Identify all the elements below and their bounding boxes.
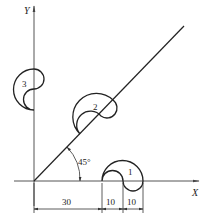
y-axis-label: Y bbox=[24, 5, 31, 16]
shape-2: 2 bbox=[73, 93, 117, 134]
dimension-label-10a: 10 bbox=[106, 197, 116, 207]
x-axis-label: X bbox=[191, 187, 199, 198]
shape-1-label: 1 bbox=[128, 167, 133, 177]
shape-3: 3 bbox=[14, 69, 44, 110]
shape-1-outline bbox=[102, 161, 143, 191]
transformation-diagram: X Y 45° 1 2 3 30 10 10 bbox=[0, 0, 206, 223]
shape-2-outline bbox=[73, 93, 117, 134]
dimension-label-30: 30 bbox=[62, 197, 72, 207]
dimension-label-10b: 10 bbox=[127, 197, 137, 207]
shape-2-label: 2 bbox=[93, 102, 98, 112]
angle-label: 45° bbox=[78, 157, 91, 167]
shape-1: 1 bbox=[102, 161, 143, 191]
shape-3-label: 3 bbox=[22, 79, 27, 89]
diagonal-line bbox=[34, 26, 184, 181]
shape-3-outline bbox=[14, 69, 44, 110]
